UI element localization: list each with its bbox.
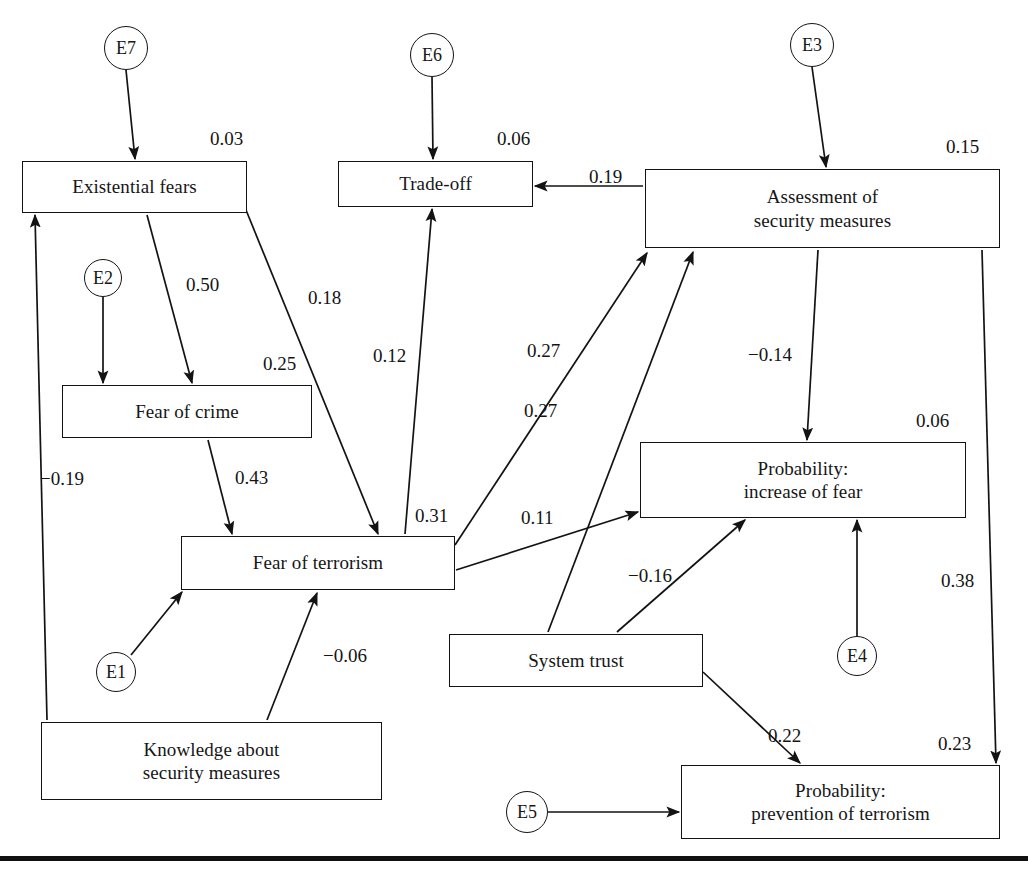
node-label-line: Fear of terrorism [253, 551, 383, 574]
coefficient-system-trust-to-probability-prevention: 0.22 [768, 725, 801, 747]
node-label-line: Probability: [751, 779, 930, 802]
error-term-label: E7 [116, 38, 136, 59]
explained-variance-fear-of-crime: 0.25 [263, 353, 296, 375]
node-system-trust[interactable]: System trust [449, 634, 703, 687]
edge-e7-to-existential-fears [126, 70, 135, 159]
coefficient-assessment-to-probability-increase: −0.14 [748, 344, 792, 366]
error-term-e7[interactable]: E7 [104, 26, 148, 70]
error-term-label: E3 [802, 35, 822, 56]
explained-variance-trade-off: 0.06 [497, 128, 530, 150]
error-term-e2[interactable]: E2 [84, 259, 122, 297]
explained-variance-existential-fears: 0.03 [210, 128, 243, 150]
edge-e6-to-trade-off [432, 77, 433, 159]
explained-variance-probability-increase-of-fear: 0.06 [916, 410, 949, 432]
node-label-line: Assessment of [754, 185, 891, 208]
node-label-line: Existential fears [72, 175, 197, 198]
node-label: System trust [528, 649, 624, 672]
node-label-line: security measures [754, 209, 891, 232]
error-term-e6[interactable]: E6 [410, 33, 454, 77]
node-existential-fears[interactable]: Existential fears [22, 161, 247, 213]
node-label: Assessment ofsecurity measures [754, 185, 891, 231]
coefficient-system-trust-to-assessment: 0.27 [524, 400, 557, 422]
node-label: Probability:increase of fear [744, 457, 863, 503]
node-label: Knowledge aboutsecurity measures [143, 738, 280, 784]
node-assessment-of-security-measures[interactable]: Assessment ofsecurity measures [645, 169, 1000, 248]
explained-variance-assessment-of-security-measures: 0.15 [946, 136, 979, 158]
error-term-e1[interactable]: E1 [96, 652, 136, 692]
error-term-label: E2 [93, 268, 113, 289]
node-label-line: Probability: [744, 457, 863, 480]
error-term-label: E6 [422, 45, 442, 66]
edge-fear-of-terrorism-to-trade-off [405, 209, 432, 534]
node-label: Fear of terrorism [253, 551, 383, 574]
error-term-e4[interactable]: E4 [837, 636, 877, 676]
edge-knowledge-to-fear-of-terrorism [267, 593, 317, 720]
bottom-rule [0, 856, 1028, 861]
node-label-line: increase of fear [744, 480, 863, 503]
edge-fear-of-terrorism-to-assessment [455, 253, 647, 545]
edge-existential-fears-to-fear-of-crime [147, 215, 192, 383]
coefficient-system-trust-to-probability-increase: −0.16 [628, 565, 672, 587]
coefficient-knowledge-to-fear-of-terrorism: −0.06 [323, 645, 367, 667]
coefficient-assessment-to-trade-off: 0.19 [589, 166, 622, 188]
node-label: Fear of crime [135, 400, 239, 423]
coefficient-fear-of-terrorism-to-probability-increase: 0.11 [521, 507, 554, 529]
node-knowledge-about-security-measures[interactable]: Knowledge aboutsecurity measures [41, 722, 382, 800]
edge-assessment-to-probability-prevention [982, 250, 996, 763]
figure-canvas: Existential fearsTrade-offAssessment ofs… [0, 0, 1028, 879]
node-probability-prevention-of-terrorism[interactable]: Probability:prevention of terrorism [681, 765, 1000, 839]
coefficient-existential-fears-to-fear-of-terrorism: 0.18 [308, 287, 341, 309]
coefficient-existential-fears-to-fear-of-crime: 0.50 [186, 274, 219, 296]
edge-fear-of-crime-to-fear-of-terrorism [208, 440, 232, 534]
error-term-e3[interactable]: E3 [790, 23, 834, 67]
node-label-line: System trust [528, 649, 624, 672]
node-fear-of-terrorism[interactable]: Fear of terrorism [181, 536, 455, 590]
node-trade-off[interactable]: Trade-off [338, 161, 533, 207]
node-label-line: Knowledge about [143, 738, 280, 761]
node-label: Trade-off [399, 172, 472, 195]
coefficient-fear-of-crime-to-fear-of-terrorism: 0.43 [235, 467, 268, 489]
explained-variance-fear-of-terrorism: 0.31 [415, 505, 448, 527]
error-term-label: E4 [847, 646, 867, 667]
edge-e1-to-fear-of-terrorism [131, 592, 182, 655]
node-label-line: prevention of terrorism [751, 802, 930, 825]
node-label-line: security measures [143, 761, 280, 784]
coefficient-assessment-to-probability-prevention: 0.38 [941, 570, 974, 592]
coefficient-fear-of-terrorism-to-assessment: 0.27 [527, 340, 560, 362]
error-term-label: E5 [517, 802, 537, 823]
explained-variance-probability-prevention-of-terrorism: 0.23 [938, 733, 971, 755]
node-fear-of-crime[interactable]: Fear of crime [62, 385, 312, 438]
node-probability-increase-of-fear[interactable]: Probability:increase of fear [640, 442, 966, 518]
coefficient-fear-of-terrorism-to-trade-off: 0.12 [373, 345, 406, 367]
edge-assessment-to-probability-increase [807, 250, 818, 440]
error-term-label: E1 [106, 662, 126, 683]
node-label: Probability:prevention of terrorism [751, 779, 930, 825]
node-label: Existential fears [72, 175, 197, 198]
edge-system-trust-to-probability-prevention [703, 672, 800, 763]
error-term-e5[interactable]: E5 [506, 791, 548, 833]
coefficient-knowledge-to-existential-fears: −0.19 [40, 468, 84, 490]
node-label-line: Trade-off [399, 172, 472, 195]
edge-e3-to-assessment [812, 67, 826, 167]
node-label-line: Fear of crime [135, 400, 239, 423]
